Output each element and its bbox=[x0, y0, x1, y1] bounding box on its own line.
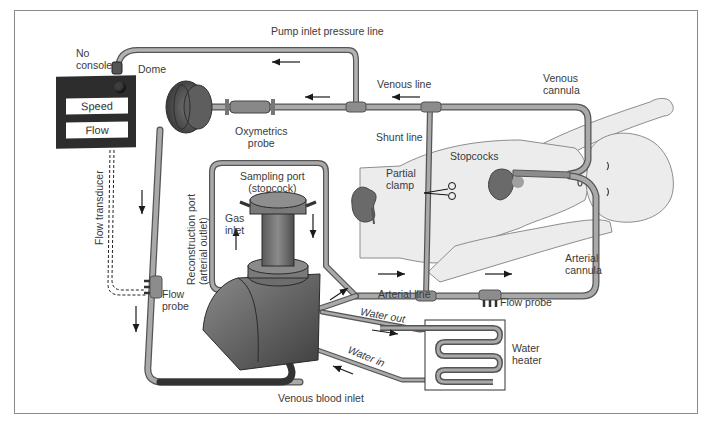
label-venous-cannula: Venous cannula bbox=[543, 72, 580, 96]
label-dome: Dome bbox=[138, 63, 166, 75]
oxygenator-icon bbox=[203, 192, 320, 370]
label-venous-line: Venous line bbox=[377, 78, 431, 90]
flow-probe-left bbox=[150, 276, 162, 298]
label-reconstruction-port: Reconstruction port (arterial outlet) bbox=[185, 194, 209, 285]
label-no-console: No console bbox=[76, 47, 112, 71]
flow-display: Flow bbox=[66, 121, 128, 138]
oxymetrics-probe bbox=[225, 99, 275, 115]
speed-display: Speed bbox=[66, 97, 128, 114]
pump-console: Speed Flow bbox=[56, 75, 136, 148]
label-sampling-port: Sampling port (stopcock) bbox=[240, 170, 305, 194]
label-venous-blood-inlet: Venous blood inlet bbox=[278, 392, 364, 404]
shunt-connector-top bbox=[421, 102, 441, 112]
pump-inlet-pressure-line bbox=[118, 50, 356, 103]
flow-probe-right bbox=[479, 290, 501, 300]
centrifugal-pump-dome bbox=[166, 81, 212, 133]
label-flow-transducer: Flow transducer bbox=[93, 170, 105, 245]
flow-arrow-icon bbox=[333, 366, 353, 374]
label-gas-inlet: Gas inlet bbox=[225, 212, 244, 236]
label-arterial-cannula: Arterial cannula bbox=[565, 252, 602, 276]
label-stopcocks: Stopcocks bbox=[450, 150, 498, 162]
flow-transducer-cable bbox=[112, 150, 146, 290]
label-flow-probe-left: Flow probe bbox=[162, 288, 189, 312]
label-flow-probe-right: Flow probe bbox=[500, 296, 552, 308]
console-knob[interactable] bbox=[114, 81, 126, 93]
label-partial-clamp: Partial clamp bbox=[386, 167, 416, 191]
label-shunt-line: Shunt line bbox=[376, 131, 423, 143]
label-water-heater: Water heater bbox=[512, 342, 542, 366]
label-oxymetrics-probe: Oxymetrics probe bbox=[235, 125, 288, 149]
pressure-transducer bbox=[112, 62, 122, 74]
label-arterial-line: Arterial line bbox=[378, 288, 431, 300]
label-pump-inlet-pressure-line: Pump inlet pressure line bbox=[271, 25, 384, 37]
venous-line-connector bbox=[346, 102, 366, 112]
